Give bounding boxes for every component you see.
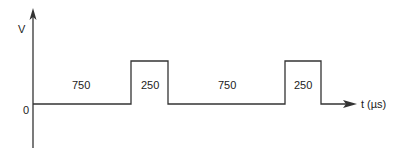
pulse-waveform-diagram: V 0 750 250 750 250 t (µs) [0,0,404,159]
x-axis-label: t (µs) [361,98,386,110]
origin-label: 0 [23,104,29,116]
segment-label-high-1: 250 [141,79,159,91]
y-axis-label: V [18,23,26,35]
segment-label-low-2: 750 [218,79,236,91]
segment-label-high-2: 250 [294,79,312,91]
segment-label-low-1: 750 [72,79,90,91]
